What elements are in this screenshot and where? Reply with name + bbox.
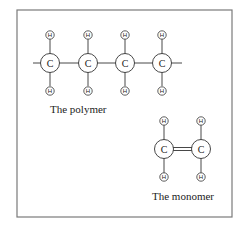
hydrogen-atom: H [197,117,205,125]
svg-text:H: H [123,88,127,94]
svg-text:H: H [48,88,52,94]
svg-text:C: C [198,144,205,155]
hydrogen-atom: H [121,31,129,39]
svg-text:H: H [199,174,203,180]
hydrogen-atom: H [160,117,168,125]
carbon-atom: C [155,140,174,159]
hydrogen-atom: H [84,31,92,39]
monomer-molecule: C C H H H H The monomer [152,117,214,202]
svg-text:H: H [160,88,164,94]
svg-text:C: C [161,144,168,155]
hydrogen-atom: H [46,87,54,95]
hydrogen-atom: H [160,173,168,181]
carbon-atom: C [41,54,60,73]
svg-text:C: C [47,58,54,69]
svg-text:H: H [162,118,166,124]
svg-text:H: H [86,88,90,94]
hydrogen-atom: H [197,173,205,181]
svg-text:H: H [86,32,90,38]
carbon-atom: C [153,54,172,73]
hydrogen-atom: H [158,87,166,95]
hydrogen-atom: H [121,87,129,95]
svg-text:C: C [159,58,166,69]
svg-text:H: H [48,32,52,38]
polymer-chain: C C C C H H H H H H H H The polymer [33,31,182,115]
hydrogen-atom: H [84,87,92,95]
carbon-atom: C [79,54,98,73]
svg-text:H: H [162,174,166,180]
svg-text:H: H [199,118,203,124]
hydrogen-atom: H [46,31,54,39]
svg-text:C: C [85,58,92,69]
svg-text:C: C [122,58,129,69]
monomer-caption: The monomer [152,190,214,202]
svg-text:H: H [123,32,127,38]
polymer-caption: The polymer [50,103,107,115]
polymer-monomer-diagram: C C C C H H H H H H H H The polymer C C … [0,0,249,225]
hydrogen-atom: H [158,31,166,39]
carbon-atom: C [192,140,211,159]
carbon-atom: C [116,54,135,73]
svg-text:H: H [160,32,164,38]
